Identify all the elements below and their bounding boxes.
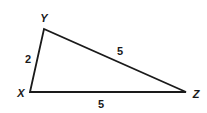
side-length-xz: 5 [98,98,104,110]
side-length-yz: 5 [117,45,123,57]
side-length-xy: 2 [25,53,31,65]
vertex-label-z: Z [192,88,201,100]
vertex-label-y: Y [40,12,49,24]
triangle-diagram: Y X Z 2 5 5 [0,0,207,113]
triangle-xyz [30,29,186,92]
vertex-label-x: X [16,87,25,99]
